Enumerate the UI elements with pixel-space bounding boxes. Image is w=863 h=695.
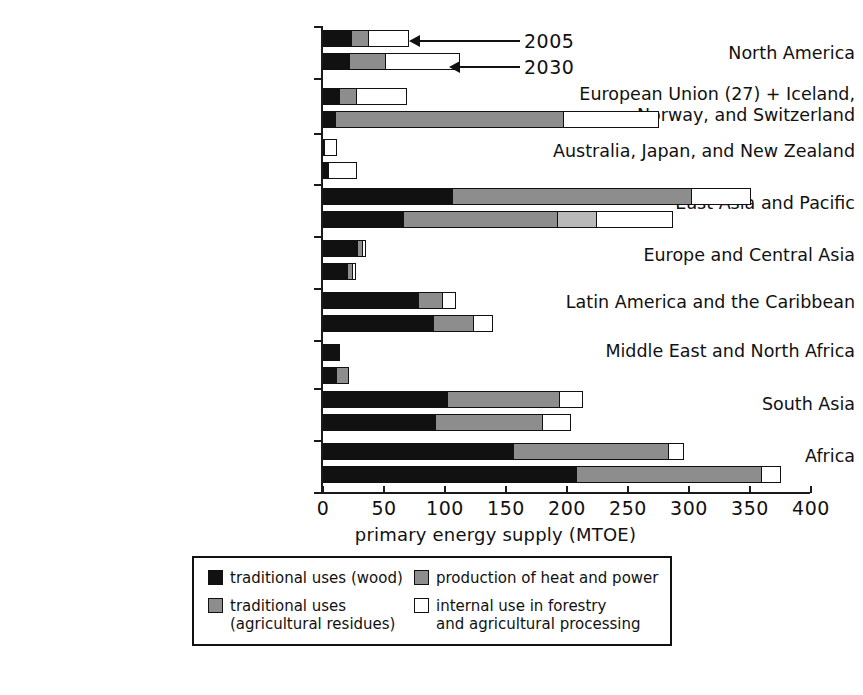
legend-swatch-dark-gray-2 <box>208 598 223 613</box>
legend-swatch-dark-gray <box>414 570 429 585</box>
callout-arrow-head-2030 <box>449 61 460 73</box>
bar-segment-1 <box>351 30 370 47</box>
category-label-latin-america: Latin America and the Caribbean <box>545 292 863 313</box>
bar-2030 <box>323 367 349 384</box>
x-ticklabel-350: 350 <box>731 497 769 519</box>
bar-segment-3 <box>368 30 409 47</box>
bar-segment-3 <box>362 240 366 257</box>
x-axis-title-text: primary energy supply (MTOE) <box>355 524 636 545</box>
bar-segment-3 <box>473 315 493 332</box>
callout-arrow-head-2005 <box>409 35 420 47</box>
y-tick-3 <box>314 184 323 186</box>
x-tick-250 <box>627 486 629 493</box>
y-tick-9 <box>314 492 323 494</box>
bar-segment-1 <box>349 53 387 70</box>
x-ticklabel-400: 400 <box>792 497 830 519</box>
bar-segment-0 <box>323 344 340 361</box>
bar-segment-2 <box>557 211 598 228</box>
bar-segment-3 <box>761 466 781 483</box>
callout-arrow-line-2005 <box>420 40 520 42</box>
y-tick-5 <box>314 288 323 290</box>
bar-segment-3 <box>691 188 751 205</box>
bar-segment-3 <box>356 88 408 105</box>
x-tick-400 <box>810 486 812 493</box>
bar-segment-3 <box>559 391 583 408</box>
bar-2005 <box>323 188 751 205</box>
bar-segment-1 <box>447 391 561 408</box>
bar-segment-3 <box>324 139 337 156</box>
bar-segment-0 <box>323 88 340 105</box>
bar-2005 <box>323 292 456 309</box>
bar-segment-3 <box>352 263 356 280</box>
y-tick-7 <box>314 388 323 390</box>
x-tick-50 <box>383 486 385 493</box>
bar-segment-0 <box>323 292 420 309</box>
x-ticklabel-100: 100 <box>426 497 464 519</box>
x-tick-100 <box>444 486 446 493</box>
bar-2030 <box>323 53 460 70</box>
bar-segment-0 <box>323 414 437 431</box>
bar-segment-3 <box>596 211 673 228</box>
bar-segment-3 <box>668 443 684 460</box>
legend-item-traditional-wood: traditional uses (wood) <box>208 569 414 587</box>
x-tick-200 <box>566 486 568 493</box>
legend-item-heat-power: production of heat and power <box>414 569 660 587</box>
y-tick-2 <box>314 133 323 135</box>
bar-segment-3 <box>542 414 570 431</box>
bar-2005 <box>323 240 366 257</box>
category-label-south-asia: South Asia <box>545 394 863 415</box>
bar-segment-0 <box>323 211 405 228</box>
x-axis-title: primary energy supply (MTOE) <box>0 524 863 545</box>
bar-segment-0 <box>323 443 515 460</box>
bar-segment-1 <box>336 367 349 384</box>
callout-arrow-line-2030 <box>460 66 520 68</box>
x-ticklabel-250: 250 <box>609 497 647 519</box>
callout-label-2030: 2030 <box>524 56 574 78</box>
x-tick-150 <box>505 486 507 493</box>
y-tick-4 <box>314 236 323 238</box>
bar-segment-1 <box>513 443 669 460</box>
bar-2005 <box>323 443 684 460</box>
bar-segment-3 <box>563 111 660 128</box>
category-label-australia-japan-nz: Australia, Japan, and New Zealand <box>545 141 863 162</box>
x-ticklabel-50: 50 <box>371 497 396 519</box>
bar-segment-1 <box>435 414 544 431</box>
bar-segment-0 <box>323 391 449 408</box>
bar-2005 <box>323 88 407 105</box>
bar-segment-0 <box>323 240 359 257</box>
x-ticklabel-150: 150 <box>487 497 525 519</box>
legend-label-agricultural-residues: traditional uses (agricultural residues) <box>230 597 395 633</box>
legend-swatch-black <box>208 570 223 585</box>
x-tick-300 <box>688 486 690 493</box>
bar-segment-0 <box>323 53 350 70</box>
bar-segment-1 <box>452 188 692 205</box>
bar-segment-0 <box>323 466 578 483</box>
bar-segment-0 <box>323 315 434 332</box>
bar-2030 <box>323 263 356 280</box>
bar-2030 <box>323 162 357 179</box>
bar-2030 <box>323 315 493 332</box>
bar-segment-0 <box>323 188 454 205</box>
bar-2005 <box>323 391 583 408</box>
bar-segment-1 <box>576 466 763 483</box>
bar-segment-0 <box>323 30 353 47</box>
category-label-europe-central-asia: Europe and Central Asia <box>545 245 863 266</box>
bar-2005 <box>323 30 409 47</box>
legend-label-traditional-wood: traditional uses (wood) <box>230 569 403 587</box>
legend-item-agricultural-residues: traditional uses (agricultural residues) <box>208 597 414 633</box>
category-label-north-america: North America <box>545 43 863 64</box>
legend: traditional uses (wood) production of he… <box>192 556 672 646</box>
chart-figure: 0 50 100 150 200 250 300 350 400 North A… <box>0 0 863 695</box>
bar-segment-1 <box>339 88 358 105</box>
bar-2005 <box>323 344 340 361</box>
x-ticklabel-0: 0 <box>317 497 330 519</box>
legend-label-heat-power: production of heat and power <box>436 569 658 587</box>
x-tick-350 <box>749 486 751 493</box>
legend-item-internal-use: internal use in forestry and agricultura… <box>414 597 660 633</box>
bar-segment-1 <box>418 292 444 309</box>
y-tick-1 <box>314 78 323 80</box>
bar-segment-3 <box>442 292 456 309</box>
y-tick-0 <box>314 26 323 28</box>
x-ticklabel-300: 300 <box>670 497 708 519</box>
bar-2030 <box>323 466 781 483</box>
